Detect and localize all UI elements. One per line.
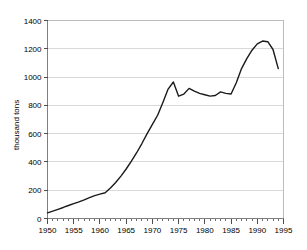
y-axis-tick-label: 1200 <box>24 45 42 54</box>
x-axis-tick-label: 1955 <box>65 226 83 235</box>
y-axis-ticks <box>44 21 48 219</box>
x-axis-tick-label: 1950 <box>39 226 57 235</box>
gridlines <box>48 21 284 219</box>
x-axis-tick-labels: 1950195519601965197019751980198519901995 <box>39 226 293 235</box>
y-axis-tick-label: 600 <box>28 130 42 139</box>
y-axis-tick-label: 800 <box>28 101 42 110</box>
x-axis-tick-label: 1990 <box>248 226 266 235</box>
x-axis-tick-label: 1995 <box>275 226 293 235</box>
x-axis-tick-label: 1960 <box>91 226 109 235</box>
x-axis-tick-label: 1975 <box>170 226 188 235</box>
y-axis-title: thousand tons <box>12 100 21 150</box>
y-axis-tick-label: 0 <box>37 215 42 224</box>
x-axis-tick-label: 1985 <box>222 226 240 235</box>
series-line <box>48 41 279 213</box>
x-axis-tick-label: 1965 <box>117 226 135 235</box>
y-axis-tick-label: 200 <box>28 186 42 195</box>
y-axis-tick-label: 400 <box>28 158 42 167</box>
x-axis-tick-label: 1980 <box>196 226 214 235</box>
data-series <box>48 41 279 213</box>
chart-container: thousand tons 0200400600800100012001400 … <box>0 0 307 250</box>
x-axis-major-ticks <box>48 219 284 224</box>
y-axis-tick-label: 1000 <box>24 73 42 82</box>
y-axis-tick-labels: 0200400600800100012001400 <box>24 17 42 224</box>
x-axis-tick-label: 1970 <box>143 226 161 235</box>
line-chart: thousand tons 0200400600800100012001400 … <box>0 0 307 250</box>
y-axis-tick-label: 1400 <box>24 17 42 26</box>
plot-frame <box>48 21 284 219</box>
